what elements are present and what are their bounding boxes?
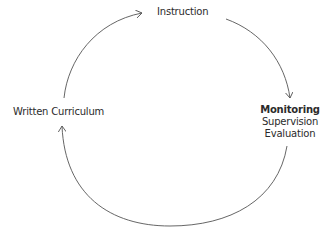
node-instruction: Instruction	[157, 6, 208, 18]
node-written-curriculum: Written Curriculum	[13, 106, 104, 118]
arrow-written-to-instruction	[64, 13, 142, 98]
cycle-diagram: Instruction Written Curriculum Monitorin…	[0, 0, 327, 233]
node-monitoring: Monitoring Supervision Evaluation	[260, 104, 320, 140]
node-monitoring-supervision: Supervision	[260, 116, 320, 128]
arrow-instruction-to-monitoring	[226, 19, 290, 98]
node-monitoring-evaluation: Evaluation	[260, 128, 320, 140]
node-monitoring-title: Monitoring	[260, 104, 320, 116]
arrow-monitoring-to-written	[62, 126, 287, 226]
